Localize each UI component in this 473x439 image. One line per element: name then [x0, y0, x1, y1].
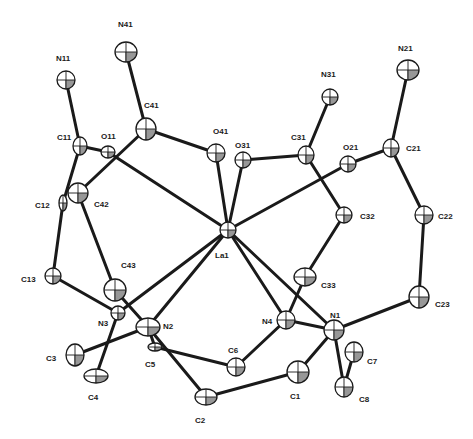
bond-c2-c1: [206, 372, 298, 397]
atom-label-c2: C2: [195, 416, 206, 425]
bond-c6-n4: [236, 320, 286, 367]
atom-c7: [345, 342, 363, 362]
atom-c13: [45, 268, 61, 284]
atom-n1: [324, 320, 344, 340]
atom-label-n11: N11: [56, 54, 71, 63]
atom-c21: [383, 139, 399, 157]
atom-label-o11: O11: [101, 132, 116, 141]
atom-label-n2: N2: [163, 322, 174, 331]
bond-o11-la1: [108, 152, 228, 230]
atom-n2: [136, 318, 160, 336]
atom-label-c6: C6: [228, 346, 239, 355]
atom-label-c21: C21: [406, 144, 421, 153]
bond-la1-n3: [118, 230, 228, 313]
atom-label-n21: N21: [398, 44, 413, 53]
atom-label-c1: C1: [290, 392, 301, 401]
atom-label-c12: C12: [35, 201, 50, 210]
bond-layer: [53, 52, 424, 397]
atom-label-c32: C32: [360, 212, 375, 221]
atom-label-c41: C41: [144, 101, 159, 110]
ortep-diagram: N41N11C41C11O11O41O31C31N31O21C21N21C42C…: [0, 0, 473, 439]
atom-label-n4: N4: [262, 317, 273, 326]
atom-c12: [59, 195, 67, 211]
atom-n31: [322, 89, 338, 105]
octant-hatch: [148, 327, 160, 336]
atom-c32: [336, 207, 352, 223]
bond-c41-o41: [146, 129, 216, 153]
atom-label-n41: N41: [118, 20, 133, 29]
atom-o21: [340, 156, 356, 172]
bond-c32-c33: [305, 215, 344, 277]
atom-o31: [235, 152, 251, 168]
atom-label-c4: C4: [88, 393, 99, 402]
atom-label-c3: C3: [46, 354, 57, 363]
atom-o41: [207, 144, 225, 162]
bond-o31-la1: [228, 160, 243, 230]
atom-la1: [220, 222, 236, 238]
bond-n2-c2: [148, 327, 206, 397]
atom-label-c5: C5: [145, 360, 156, 369]
atom-label-c13: C13: [21, 275, 36, 284]
atom-label-c22: C22: [438, 212, 453, 221]
atom-c22: [415, 206, 433, 224]
bond-n41-c41: [126, 52, 146, 129]
atom-label-c31: C31: [291, 133, 306, 142]
bond-c12-c13: [53, 203, 63, 276]
atom-label-n31: N31: [321, 70, 336, 79]
atom-label-c11: C11: [57, 133, 72, 142]
bond-c23-n1: [334, 297, 419, 330]
atom-label-c23: C23: [435, 300, 450, 309]
atom-label-o21: O21: [343, 143, 359, 152]
atom-c8: [335, 377, 353, 397]
atom-c2: [195, 389, 217, 405]
atom-o11: [101, 146, 115, 158]
bond-o21-la1: [228, 164, 348, 230]
atom-c4: [84, 369, 108, 383]
atom-n11: [57, 71, 75, 89]
atom-c43: [104, 279, 126, 301]
atom-label-c8: C8: [359, 395, 370, 404]
atom-c1: [287, 361, 309, 383]
atom-c31: [298, 146, 314, 164]
atom-n4: [277, 311, 295, 329]
atom-label-o31: O31: [235, 141, 251, 150]
atom-n41: [115, 42, 137, 62]
atom-c5: [148, 343, 162, 351]
atom-label-c33: C33: [321, 281, 336, 290]
bond-c21-n21: [391, 70, 408, 148]
atom-label-la1: La1: [215, 251, 229, 260]
atom-c42: [68, 183, 88, 203]
atom-label-o41: O41: [213, 127, 229, 136]
atom-c33: [294, 268, 316, 286]
atom-n3: [111, 306, 125, 320]
bond-o41-la1: [216, 153, 228, 230]
atom-label-c43: C43: [121, 261, 136, 270]
bond-la1-n2: [148, 230, 228, 327]
atom-c41: [136, 118, 156, 140]
bond-c22-c23: [419, 215, 424, 297]
octant-hatch: [96, 376, 108, 383]
atom-label-n3: N3: [98, 319, 109, 328]
bond-c21-c22: [391, 148, 424, 215]
bond-o31-c31: [243, 155, 306, 160]
atom-c6: [227, 358, 245, 376]
atom-label-c7: C7: [367, 357, 378, 366]
atom-c23: [409, 286, 429, 308]
atom-n21: [397, 60, 419, 80]
molecular-structure: N41N11C41C11O11O41O31C31N31O21C21N21C42C…: [0, 0, 473, 439]
atom-label-n1: N1: [330, 311, 341, 320]
atom-label-c42: C42: [94, 200, 109, 209]
atom-c11: [73, 137, 87, 155]
atom-c3: [66, 344, 84, 366]
